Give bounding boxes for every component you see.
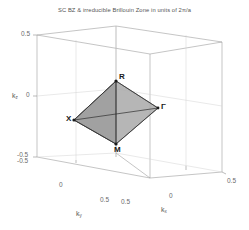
axes-3d [0, 0, 249, 230]
wedge-face-left [74, 81, 116, 144]
vertex-R [114, 79, 117, 82]
axis-label-kx-sub: x [165, 209, 167, 214]
irreducible-wedge [72, 79, 159, 145]
x-tick-0: 0 [169, 192, 173, 199]
figure-canvas: SC BZ & irreducible Brillouin Zone in un… [0, 0, 249, 230]
x-tick-0.5: 0.5 [227, 177, 236, 184]
y-tick-0.5: 0.5 [100, 196, 109, 203]
symmetry-point-label-R: R [119, 72, 125, 81]
vertex-X [72, 118, 75, 121]
symmetry-point-label-X: X [66, 114, 71, 123]
axis-label-kz-sub: z [16, 95, 18, 100]
z-tick-0.5: 0.5 [21, 30, 30, 37]
y-tick-0: 0 [59, 181, 63, 188]
symmetry-point-label-M: M [114, 145, 121, 154]
axis-label-kz: kz [12, 92, 18, 100]
vertex-Gamma [157, 107, 160, 110]
axis-label-ky: ky [76, 210, 82, 218]
axis-label-ky-sub: y [80, 213, 82, 218]
z-tick-0: 0 [26, 91, 30, 98]
x-tick-0.5-origin: 0.5 [121, 198, 130, 205]
symmetry-point-label-gamma: Γ [161, 102, 166, 111]
axis-label-kx: kx [161, 206, 167, 214]
y-tick-neg0.5: -0.5 [17, 157, 28, 164]
